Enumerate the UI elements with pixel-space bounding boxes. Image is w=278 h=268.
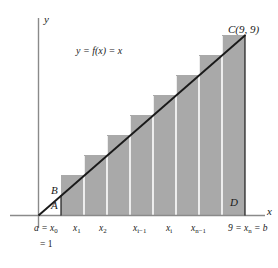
tick-xn-main: 9 = x	[228, 223, 248, 233]
tick-x1-sub: 1	[77, 227, 80, 234]
tick-label-xi-minus-1: xi−1	[133, 224, 146, 234]
tick-x2-sub: 2	[103, 227, 106, 234]
tick-label-x0: a = x0	[34, 224, 58, 234]
tick-label-xi: xi	[166, 224, 172, 234]
tick-xi-sub: i	[170, 227, 172, 234]
tick-x0-main: a = x	[34, 223, 54, 233]
tick-xn-tail: = b	[252, 223, 268, 233]
tick-label-xn: 9 = xn = b	[228, 224, 267, 234]
tick-xnm1-sub: n−1	[195, 227, 206, 234]
rect-6	[176, 75, 199, 215]
rect-7	[199, 55, 222, 215]
riemann-sum-figure: y x y = f(x) = x B A C(9, 9) D a = x0 = …	[0, 0, 278, 268]
x-axis-label: x	[267, 206, 272, 217]
y-axis-label: y	[44, 14, 49, 25]
rect-8	[222, 35, 245, 215]
tick-x0-sub: 0	[54, 227, 57, 234]
tick-label-xn-minus-1: xn−1	[191, 224, 206, 234]
tick-label-x0-second-line: = 1	[40, 240, 52, 250]
tick-label-x2: x2	[99, 224, 107, 234]
point-label-C: C(9, 9)	[228, 24, 259, 35]
point-label-A: A	[51, 200, 58, 211]
rect-4	[130, 115, 153, 215]
point-label-D: D	[230, 197, 238, 208]
tick-label-x1: x1	[73, 224, 81, 234]
function-annotation: y = f(x) = x	[76, 46, 122, 56]
tick-xim1-sub: i−1	[137, 227, 146, 234]
rect-1	[61, 175, 84, 215]
point-label-B: B	[51, 185, 58, 196]
rect-2	[84, 155, 107, 215]
